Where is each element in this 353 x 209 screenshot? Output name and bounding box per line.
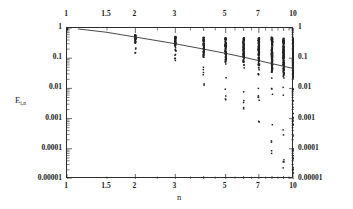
y-tick-left-0.1: 0.1 <box>53 53 62 61</box>
scatter-point <box>175 47 177 49</box>
scatter-point <box>283 68 285 70</box>
scatter-point <box>283 75 285 77</box>
scatter-point <box>203 46 205 48</box>
x-tick-top-7: 7 <box>256 10 260 18</box>
scatter-point <box>293 155 294 157</box>
chart-figure: Ei,n n 11.5235710 11.5235710 10.10.010.0… <box>0 0 353 209</box>
x-tick-top-3: 3 <box>172 10 176 18</box>
scatter-point <box>293 61 294 63</box>
scatter-point <box>293 117 294 119</box>
scatter-point <box>203 43 205 45</box>
scatter-point <box>293 75 294 77</box>
scatter-point <box>243 43 245 45</box>
scatter-point <box>271 49 273 51</box>
scatter-point <box>271 153 273 155</box>
scatter-point <box>293 135 294 137</box>
scatter-point <box>272 61 274 63</box>
scatter-point <box>293 124 294 126</box>
scatter-point <box>271 77 273 79</box>
scatter-point <box>272 124 274 126</box>
scatter-point <box>225 45 227 47</box>
scatter-point <box>258 88 260 90</box>
scatter-point <box>293 42 294 44</box>
scatter-point <box>203 56 205 58</box>
scatter-point <box>293 158 294 160</box>
scatter-point <box>283 77 285 79</box>
scatter-point <box>243 67 245 69</box>
scatter-point <box>224 50 226 52</box>
y-tick-right-0.00001: 0.00001 <box>298 174 322 182</box>
scatter-point <box>283 69 285 71</box>
scatter-point <box>135 35 137 37</box>
scatter-point <box>243 41 245 43</box>
scatter-point <box>271 46 273 48</box>
x-tick-bottom-1.5: 1.5 <box>101 182 110 190</box>
scatter-point <box>259 44 261 46</box>
scatter-point <box>293 50 294 52</box>
scatter-point <box>272 94 274 96</box>
scatter-point <box>243 64 245 66</box>
scatter-point <box>282 167 284 169</box>
y-tick-right-0.001: 0.001 <box>298 114 315 122</box>
scatter-point <box>243 52 245 54</box>
y-tick-right-1: 1 <box>298 23 302 31</box>
scatter-point <box>243 91 245 93</box>
scatter-point <box>271 39 273 41</box>
scatter-point <box>243 100 245 102</box>
scatter-point <box>258 53 260 55</box>
x-tick-bottom-10: 10 <box>289 182 297 190</box>
scatter-point <box>271 69 273 71</box>
scatter-point <box>243 55 245 57</box>
x-tick-top-5: 5 <box>223 10 227 18</box>
y-tick-left-0.0001: 0.0001 <box>41 144 62 152</box>
x-tick-bottom-5: 5 <box>223 182 227 190</box>
scatter-point <box>282 87 284 89</box>
y-axis-title: Ei,n <box>15 96 26 106</box>
scatter-point <box>224 61 226 63</box>
scatter-point <box>258 121 260 123</box>
x-tick-top-10: 10 <box>289 10 297 18</box>
scatter-point <box>225 95 227 97</box>
scatter-point <box>134 52 136 54</box>
scatter-point <box>243 102 245 104</box>
scatter-point <box>283 53 285 55</box>
plot-canvas <box>67 28 294 179</box>
scatter-point <box>258 57 260 59</box>
scatter-point <box>242 50 244 52</box>
scatter-point <box>271 66 273 68</box>
scatter-point <box>202 74 204 76</box>
scatter-point <box>282 49 284 51</box>
scatter-point <box>283 56 285 58</box>
scatter-point <box>271 71 273 73</box>
scatter-point <box>243 39 245 41</box>
scatter-point <box>271 56 273 58</box>
scatter-point <box>175 60 177 62</box>
scatter-point <box>258 64 260 66</box>
scatter-point <box>203 69 205 71</box>
scatter-point <box>174 58 176 60</box>
scatter-point <box>293 55 294 57</box>
scatter-point <box>258 67 260 69</box>
scatter-point <box>271 140 273 142</box>
scatter-point <box>271 43 273 45</box>
scatter-point <box>135 38 137 40</box>
scatter-point <box>272 38 274 40</box>
x-tick-top-1: 1 <box>64 10 68 18</box>
y-axis-title-subscript: i,n <box>20 100 26 106</box>
scatter-point <box>135 48 137 50</box>
scatter-point <box>243 37 245 39</box>
scatter-point <box>203 53 205 55</box>
scatter-point <box>271 150 273 152</box>
scatter-point <box>225 47 227 49</box>
scatter-point <box>293 150 294 152</box>
x-tick-bottom-3: 3 <box>172 182 176 190</box>
scatter-point <box>271 88 273 90</box>
x-axis-title: n <box>177 193 181 202</box>
scatter-point <box>293 39 294 41</box>
scatter-point <box>175 38 177 40</box>
scatter-point <box>282 46 284 48</box>
scatter-point <box>225 63 227 65</box>
scatter-point <box>283 94 285 96</box>
y-tick-left-1: 1 <box>58 23 62 31</box>
scatter-point <box>282 60 284 62</box>
